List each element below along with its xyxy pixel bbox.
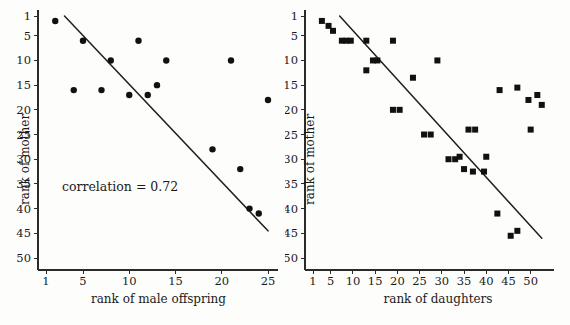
x-tick-label: 1 <box>42 274 49 288</box>
correlation-annotation-left: correlation = 0.72 <box>62 179 178 194</box>
y-tick-label: 5 <box>24 29 31 43</box>
plot-area-right: 1510152025303540455015101520253035404550 <box>285 0 570 325</box>
data-point <box>483 154 489 160</box>
data-point <box>470 169 476 175</box>
regression-line <box>340 16 542 238</box>
x-tick-label: 5 <box>79 274 86 288</box>
x-tick-label: 1 <box>309 274 316 288</box>
data-point <box>108 57 114 63</box>
plot-area-left: 151015202530354045501510152025 <box>0 0 285 325</box>
data-point <box>390 38 396 44</box>
data-point <box>494 211 500 217</box>
data-point <box>445 156 451 162</box>
data-point <box>528 127 534 133</box>
x-tick-label: 45 <box>501 274 516 288</box>
panel-male-offspring: 151015202530354045501510152025 rank of m… <box>0 0 285 325</box>
data-point <box>390 107 396 113</box>
data-point <box>237 166 243 172</box>
x-axis-title-left: rank of male offspring <box>46 292 271 306</box>
data-point <box>348 38 354 44</box>
data-point <box>465 127 471 133</box>
data-point <box>534 92 540 98</box>
y-tick-label: 1 <box>291 9 298 23</box>
x-tick-label: 25 <box>261 274 276 288</box>
x-tick-label: 25 <box>412 274 427 288</box>
data-point <box>421 132 427 138</box>
data-point <box>481 169 487 175</box>
data-point <box>410 75 416 81</box>
data-point <box>71 87 77 93</box>
data-point <box>80 37 86 43</box>
panel-daughters: 1510152025303540455015101520253035404550… <box>285 0 570 325</box>
y-tick-label: 25 <box>285 128 298 142</box>
y-tick-label: 50 <box>16 251 31 265</box>
data-point <box>397 107 403 113</box>
data-point <box>52 18 58 24</box>
y-tick-label: 15 <box>16 78 31 92</box>
y-tick-label: 10 <box>16 53 31 67</box>
data-point <box>98 87 104 93</box>
data-point <box>135 37 141 43</box>
data-point <box>363 67 369 73</box>
y-tick-label: 45 <box>16 226 31 240</box>
y-axis-title-left: rank of mother <box>18 114 32 205</box>
data-point <box>154 82 160 88</box>
y-tick-label: 20 <box>285 103 298 117</box>
x-tick-label: 15 <box>168 274 183 288</box>
x-tick-label: 40 <box>479 274 494 288</box>
data-point <box>363 38 369 44</box>
data-point <box>428 132 434 138</box>
scatter-plot-figure: 151015202530354045501510152025 rank of m… <box>0 0 570 325</box>
x-tick-label: 35 <box>457 274 472 288</box>
data-point <box>209 146 215 152</box>
data-point <box>256 210 262 216</box>
data-point <box>330 28 336 34</box>
x-tick-label: 10 <box>346 274 361 288</box>
x-tick-label: 20 <box>390 274 405 288</box>
data-point <box>374 57 380 63</box>
data-point <box>497 87 503 93</box>
y-tick-label: 35 <box>285 177 298 191</box>
data-point <box>457 154 463 160</box>
x-tick-label: 50 <box>523 274 538 288</box>
data-point <box>514 85 520 91</box>
y-tick-label: 40 <box>285 202 298 216</box>
data-point <box>461 166 467 172</box>
data-point <box>163 57 169 63</box>
y-tick-label: 15 <box>285 78 298 92</box>
x-tick-label: 5 <box>327 274 334 288</box>
x-tick-label: 10 <box>122 274 137 288</box>
x-tick-label: 15 <box>368 274 383 288</box>
x-tick-label: 30 <box>435 274 450 288</box>
y-tick-label: 45 <box>285 226 298 240</box>
y-tick-label: 30 <box>285 152 298 166</box>
data-point <box>514 228 520 234</box>
y-axis-title-right: rank of mother <box>303 114 317 205</box>
data-point <box>319 18 325 24</box>
data-point <box>145 92 151 98</box>
y-tick-label: 50 <box>285 251 298 265</box>
data-point <box>126 92 132 98</box>
data-point <box>265 97 271 103</box>
data-point <box>525 97 531 103</box>
x-tick-label: 20 <box>214 274 229 288</box>
x-axis-title-right: rank of daughters <box>313 292 563 306</box>
y-tick-label: 5 <box>291 29 298 43</box>
data-point <box>539 102 545 108</box>
data-point <box>246 205 252 211</box>
data-point <box>508 233 514 239</box>
y-tick-label: 10 <box>285 53 298 67</box>
data-point <box>472 127 478 133</box>
data-point <box>434 57 440 63</box>
data-point <box>228 57 234 63</box>
y-tick-label: 1 <box>24 9 31 23</box>
regression-line <box>65 16 269 231</box>
